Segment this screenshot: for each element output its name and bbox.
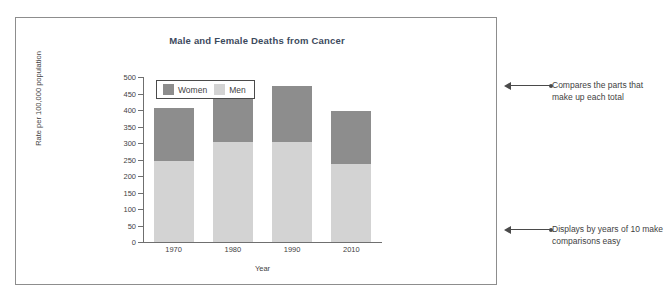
x-tick-label-1970: 1970 <box>144 245 204 254</box>
x-axis-title: Year <box>144 264 381 273</box>
y-axis-tick-labels: 500450400350300250200150100500 <box>92 77 136 243</box>
y-tick-label: 100 <box>96 205 136 214</box>
y-axis-title: Rate per 100,000 population <box>34 24 43 174</box>
bar-segment-women-2010[interactable] <box>331 111 371 164</box>
y-tick-label: 500 <box>96 73 136 82</box>
left-arrow-icon <box>504 224 552 235</box>
x-tick-label-1980: 1980 <box>203 245 263 254</box>
legend-label-men: Men <box>229 85 246 95</box>
bar-group-2010[interactable] <box>331 111 371 242</box>
x-tick-label-1990: 1990 <box>262 245 322 254</box>
y-tick-label: 300 <box>96 139 136 148</box>
x-tick-label-2010: 2010 <box>321 245 381 254</box>
y-tick-label: 450 <box>96 90 136 99</box>
bar-segment-women-1980[interactable] <box>213 93 253 143</box>
chart-title: Male and Female Deaths from Cancer <box>16 35 498 46</box>
bar-segment-men-1970[interactable] <box>154 161 194 242</box>
left-arrow-icon <box>504 80 552 91</box>
legend-entry-women: Women <box>163 84 207 95</box>
bar-segment-women-1990[interactable] <box>272 86 312 142</box>
annotation-decade-intervals: Displays by years of 10 make comparisons… <box>504 224 664 247</box>
y-tick-label: 350 <box>96 123 136 132</box>
bar-group-1990[interactable] <box>272 86 312 242</box>
bar-segment-men-2010[interactable] <box>331 164 371 242</box>
y-tick-label: 50 <box>96 222 136 231</box>
legend-label-women: Women <box>178 85 207 95</box>
y-tick-label: 200 <box>96 172 136 181</box>
bar-segment-men-1980[interactable] <box>213 142 253 242</box>
bar-group-1980[interactable] <box>213 93 253 242</box>
bar-group-1970[interactable] <box>154 108 194 242</box>
legend-swatch-icon-men <box>214 84 225 95</box>
annotation-text-top: Compares the parts that make up each tot… <box>552 80 664 103</box>
bar-segment-women-1970[interactable] <box>154 108 194 161</box>
chart-legend: Women Men <box>156 80 255 99</box>
figure-frame: Male and Female Deaths from Cancer Rate … <box>15 17 497 285</box>
y-tick-label: 250 <box>96 156 136 165</box>
bar-segment-men-1990[interactable] <box>272 142 312 242</box>
legend-entry-men: Men <box>214 84 246 95</box>
x-axis-line <box>143 242 382 243</box>
legend-swatch-icon-women <box>163 84 174 95</box>
annotation-compares-parts: Compares the parts that make up each tot… <box>504 80 664 103</box>
plot-area: 1970198019902010 <box>144 77 381 242</box>
y-tick-label: 150 <box>96 189 136 198</box>
annotation-text-bottom: Displays by years of 10 make comparisons… <box>552 224 664 247</box>
y-tick-label: 400 <box>96 106 136 115</box>
y-tick-label: 0 <box>96 238 136 247</box>
